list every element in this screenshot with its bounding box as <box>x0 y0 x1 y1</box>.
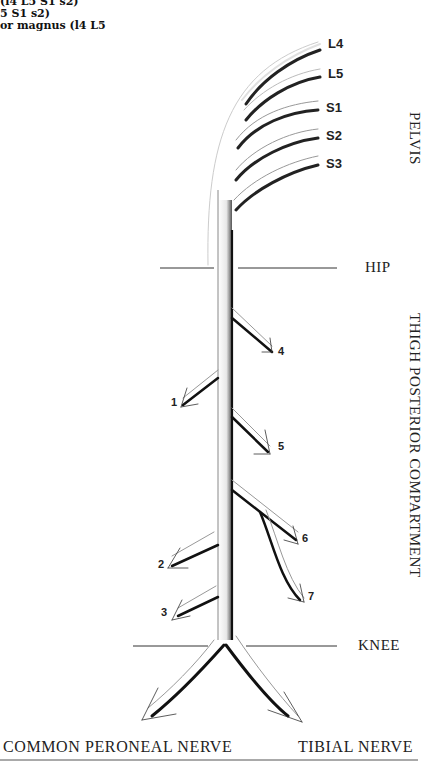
root-label-s3: S3 <box>326 156 342 171</box>
branch-number-1: 1 <box>171 396 177 408</box>
branch-number-3: 3 <box>161 606 167 618</box>
root-label-l4: L4 <box>328 36 343 51</box>
root-label-s1: S1 <box>326 100 342 115</box>
region-label-knee: KNEE <box>358 637 400 654</box>
sciatic-trunk <box>218 190 232 640</box>
branch-number-2: 2 <box>158 558 164 570</box>
branch-number-7: 7 <box>308 590 314 602</box>
label-common-peroneal-nerve: COMMON PERONEAL NERVE <box>3 738 232 756</box>
region-label-pelvis: PELVIS <box>406 112 423 165</box>
root-label-l5: L5 <box>328 66 343 81</box>
region-label-hip: HIP <box>365 259 391 276</box>
common-peroneal-branch <box>152 645 224 716</box>
region-label-thigh-posterior-compartment: THIGH POSTERIOR COMPARTMENT <box>406 313 423 578</box>
label-tibial-nerve: TIBIAL NERVE <box>298 738 413 756</box>
sciatic-nerve-diagram <box>0 0 440 776</box>
tibial-branch <box>226 645 288 716</box>
branch-number-4: 4 <box>278 345 284 357</box>
terminal-branches <box>142 636 302 722</box>
root-label-s2: S2 <box>326 128 342 143</box>
branch-number-6: 6 <box>302 532 308 544</box>
branch-number-5: 5 <box>278 440 284 452</box>
